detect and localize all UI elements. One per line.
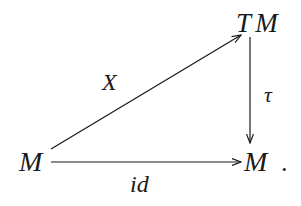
label-id: id xyxy=(130,172,149,196)
trailing-period: . xyxy=(281,150,288,176)
label-x: X xyxy=(102,70,117,94)
node-target-m: M xyxy=(244,148,267,176)
node-tangent-bundle-tm: T M xyxy=(236,10,277,37)
commutative-diagram: M T M M . X τ id xyxy=(0,0,301,206)
label-tau: τ xyxy=(264,84,272,106)
node-source-m: M xyxy=(19,148,42,176)
arrow-x-diagonal xyxy=(51,35,241,149)
